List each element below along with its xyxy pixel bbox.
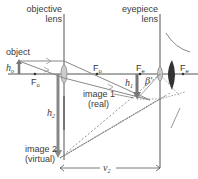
objective-lens-label-1: objective (26, 4, 62, 14)
microscope-ray-diagram: objective lens eyepiece lens object ho F… (0, 0, 198, 179)
image2-label-2: (virtual) (25, 154, 55, 164)
eyepiece-lens-label-1: eyepiece (122, 4, 158, 14)
h1-label: h1 (125, 77, 133, 89)
objective-lens-label-2: lens (45, 14, 62, 24)
f-o-right-label: Fo (93, 63, 103, 74)
f-e-left-label: Fe (136, 63, 146, 74)
objective-lens (61, 65, 67, 83)
f-e-right-label: Fe (180, 63, 190, 74)
image1-label-1: image 1 (83, 89, 115, 99)
object-label: object (6, 47, 31, 57)
eye-icon (168, 60, 175, 90)
f-o-left-label: Fo (31, 77, 41, 88)
eye-lid-upper (166, 33, 190, 52)
eye-lid-lower (171, 108, 180, 128)
image1-label-2: (real) (88, 99, 109, 109)
h2-label: h2 (47, 107, 55, 119)
image2-label-1: image 2 (25, 144, 57, 154)
beta-prime-label: β' (144, 75, 153, 86)
h-o-label: ho (6, 62, 14, 74)
eyepiece-lens-label-2: lens (141, 14, 158, 24)
